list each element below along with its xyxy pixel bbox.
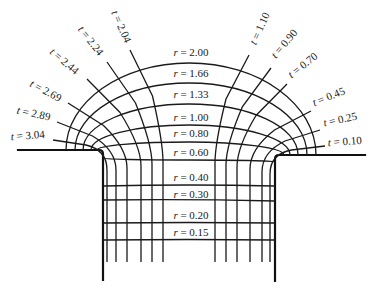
r-value: = 2.00 <box>178 46 209 58</box>
t-curve-label: t = 1.10 <box>247 10 272 46</box>
t-curve-label: t = 2.44 <box>48 45 82 76</box>
t-curve <box>87 79 141 262</box>
r-value: = 0.20 <box>178 209 209 221</box>
t-value: = 3.04 <box>13 128 45 142</box>
t-curve-label: t = 2.69 <box>28 77 64 104</box>
r-value: = 0.80 <box>178 127 209 139</box>
r-value: = 0.60 <box>178 146 209 158</box>
r-curve-label: r = 1.66 <box>173 67 209 79</box>
r-curve-label: r = 1.00 <box>173 111 209 123</box>
r-curve <box>103 240 275 241</box>
t-curve <box>130 50 163 262</box>
flow-net-diagram: r = 2.00r = 1.66r = 1.33r = 1.00r = 0.80… <box>0 0 382 290</box>
t-value: = 0.10 <box>330 134 362 148</box>
t-curve-label: t = 0.90 <box>268 26 299 60</box>
t-curve <box>215 55 249 262</box>
r-curve-label: r = 0.80 <box>173 127 209 139</box>
t-value: = 0.45 <box>313 84 347 107</box>
r-value: = 0.40 <box>178 171 209 183</box>
t-value: = 2.69 <box>31 79 64 104</box>
t-value: = 2.04 <box>110 11 134 45</box>
t-curve-label: t = 2.24 <box>76 23 107 58</box>
r-curve-label: r = 0.20 <box>173 209 209 221</box>
r-curve-label: r = 0.30 <box>173 188 209 200</box>
r-curve-label: r = 1.33 <box>173 88 209 100</box>
t-curve-label: t = 3.04 <box>10 128 45 142</box>
r-curve-label: r = 2.00 <box>173 46 209 58</box>
t-curve <box>53 140 107 262</box>
t-value: = 2.24 <box>78 26 107 58</box>
t-value: = 0.70 <box>288 49 320 78</box>
t-curve <box>226 68 271 262</box>
r-value: = 1.33 <box>178 88 209 100</box>
t-curve-label: t = 0.45 <box>310 84 346 108</box>
t-value: = 0.25 <box>325 110 358 128</box>
t-value: = 1.10 <box>248 10 272 44</box>
left-wall <box>18 150 103 280</box>
t-curve <box>270 146 325 262</box>
r-value: = 1.66 <box>178 67 209 79</box>
r-curve <box>103 223 275 224</box>
t-curve-label: t = 2.04 <box>109 8 134 44</box>
t-curve-label: t = 0.70 <box>285 49 320 80</box>
r-curve-label: r = 0.40 <box>173 171 209 183</box>
r-curve <box>103 185 275 186</box>
r-curve-label: r = 0.60 <box>173 146 209 158</box>
t-value: = 2.89 <box>19 104 52 122</box>
r-value: = 1.00 <box>178 111 209 123</box>
right-wall <box>275 155 365 281</box>
r-value: = 0.30 <box>178 188 209 200</box>
t-curve-label: t = 0.25 <box>322 110 358 129</box>
t-curve-label: t = 0.10 <box>327 134 362 148</box>
t-value: = 0.90 <box>270 26 299 58</box>
r-curve <box>103 158 275 162</box>
t-value: = 2.44 <box>50 47 82 76</box>
t-curve-label: t = 2.89 <box>16 104 52 123</box>
r-curve-label: r = 0.15 <box>173 226 209 238</box>
r-value: = 0.15 <box>178 226 209 238</box>
